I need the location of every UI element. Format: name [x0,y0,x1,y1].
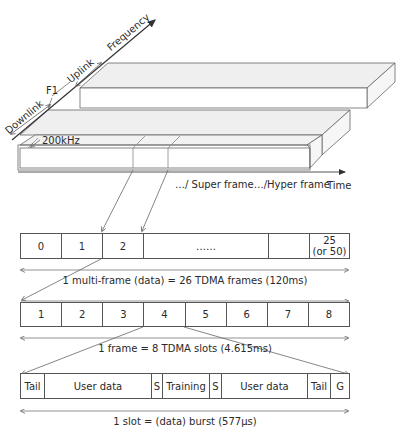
multiframe-cell-last: 25 (or 50) [310,234,349,258]
burst-training: Training [163,374,210,398]
multiframe-cell-blank [269,234,310,258]
multiframe-cell-0: 0 [21,234,62,258]
slot-caption: 1 slot = (data) burst (577µs) [20,416,350,427]
superframe-caption: …/ Super frame…/Hyper frame [175,179,330,191]
frame-slot-4: 4 [144,303,185,326]
frame-row: 1 2 3 4 5 6 7 8 [20,302,350,327]
frame-slot-3: 3 [103,303,144,326]
multiframe-last-line2: (or 50) [313,246,347,257]
uplink-slab [80,63,395,108]
frame-slot-1: 1 [21,303,62,326]
burst-row: Tail User data S Training S User data Ta… [20,373,350,399]
burst-guard: G [331,374,349,398]
frame-slot-7: 7 [268,303,309,326]
frame-slot-8: 8 [309,303,349,326]
burst-user-data-1: User data [45,374,152,398]
multiframe-cell-2: 2 [103,234,144,258]
burst-stealing-flag-1: S [152,374,163,398]
carrier-f1-label: F1 [46,85,58,97]
frame-slot-6: 6 [227,303,268,326]
bandwidth-label: 200kHz [42,135,80,147]
frame-slot-2: 2 [62,303,103,326]
multiframe-cell-ellipsis: …… [144,234,269,258]
frame-slot-5: 5 [186,303,227,326]
time-axis-label: Time [327,180,351,192]
multiframe-caption: 1 multi-frame (data) = 26 TDMA frames (1… [20,275,350,286]
burst-tail-end: Tail [308,374,331,398]
multiframe-row: 0 1 2 …… 25 (or 50) [20,233,350,259]
burst-stealing-flag-2: S [210,374,222,398]
frame-caption: 1 frame = 8 TDMA slots (4.615ms) [20,343,350,354]
multiframe-last-line1: 25 [323,235,336,246]
burst-user-data-2: User data [222,374,308,398]
multiframe-cell-1: 1 [62,234,103,258]
burst-tail-start: Tail [21,374,45,398]
